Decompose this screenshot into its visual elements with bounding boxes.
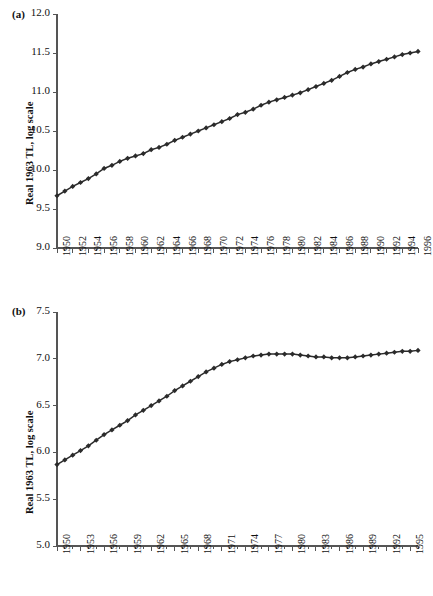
data-point [109,163,114,168]
x-tick-label: 1990 [375,236,386,256]
x-tick-label: 1962 [155,236,166,256]
x-tick-label: 1956 [108,534,119,554]
x-tick-label: 1995 [414,534,425,554]
x-tick-label: 1984 [328,236,339,256]
data-point [321,81,326,86]
x-tick-label: 1989 [367,534,378,554]
x-tick-label: 1962 [155,534,166,554]
plot-area-b: 5.05.56.06.57.07.51950195319561959196219… [0,296,433,596]
data-point [415,348,420,353]
data-point [329,78,334,83]
data-point [235,357,240,362]
data-series-line [57,350,418,464]
y-tick-label: 10.5 [0,123,50,135]
y-tick-label: 12.0 [0,6,50,18]
x-tick-label: 1974 [249,534,260,554]
data-point [290,352,295,357]
data-point [219,119,224,124]
data-point [156,145,161,150]
data-point [117,159,122,164]
y-tick-label: 6.5 [0,398,50,410]
data-point [321,354,326,359]
data-point [282,95,287,100]
data-point [172,138,177,143]
x-tick-label: 1980 [296,236,307,256]
data-point [298,90,303,95]
y-tick-label: 7.5 [0,304,50,316]
x-tick-label: 1986 [344,534,355,554]
x-tick-label: 1959 [132,534,143,554]
x-tick-label: 1992 [391,534,402,554]
data-point [219,362,224,367]
data-point [298,352,303,357]
data-point [180,135,185,140]
data-point [337,74,342,79]
data-point [274,352,279,357]
y-tick-label: 10.0 [0,162,50,174]
data-point [353,67,358,72]
data-point [235,112,240,117]
data-point [353,354,358,359]
data-point [78,180,83,185]
data-point [290,93,295,98]
data-point [149,147,154,152]
x-tick-label: 1978 [281,236,292,256]
x-tick-label: 1968 [202,236,213,256]
data-point [408,50,413,55]
data-point [243,355,248,360]
data-point [313,354,318,359]
data-point [345,355,350,360]
data-point [258,352,263,357]
data-point [266,100,271,105]
chart-panel-b: (b) Real 1963 TL, log scale 5.05.56.06.5… [0,296,433,596]
plot-area-a: 9.09.510.010.511.011.512.019501952195419… [0,0,433,296]
data-point [211,122,216,127]
data-point [400,52,405,57]
data-point [306,353,311,358]
x-tick-label: 1966 [187,236,198,256]
data-point [227,359,232,364]
data-point [243,110,248,115]
data-point [408,349,413,354]
x-tick-label: 1968 [202,534,213,554]
data-point [211,366,216,371]
data-point-markers [54,348,420,467]
data-point [141,151,146,156]
x-tick-label: 1992 [391,236,402,256]
chart-panel-a: (a) Real 1963 TL, log scale 9.09.510.010… [0,0,433,296]
y-tick-label: 11.0 [0,84,50,96]
data-point [251,107,256,112]
data-point [368,61,373,66]
x-tick-label: 1970 [218,236,229,256]
x-tick-label: 1974 [249,236,260,256]
data-point [376,59,381,64]
data-point [164,142,169,147]
x-tick-label: 1958 [124,236,135,256]
data-point [266,352,271,357]
data-series-line [57,51,418,195]
data-point [384,351,389,356]
data-point [282,352,287,357]
data-point [227,116,232,121]
data-point [204,125,209,130]
data-point [133,153,138,158]
data-point [196,128,201,133]
x-tick-label: 1986 [344,236,355,256]
y-tick-label: 5.5 [0,491,50,503]
x-tick-label: 1950 [61,534,72,554]
data-point [400,349,405,354]
data-point [392,54,397,59]
x-tick-label: 1994 [406,236,417,256]
x-tick-label: 1960 [139,236,150,256]
data-point [392,350,397,355]
y-tick-label: 7.0 [0,351,50,363]
data-point [415,49,420,54]
data-point [329,355,334,360]
data-point [306,87,311,92]
data-point [251,353,256,358]
y-tick-label: 9.0 [0,240,50,252]
data-point [368,352,373,357]
data-point [313,84,318,89]
y-tick-label: 6.0 [0,444,50,456]
data-point-markers [54,49,420,199]
